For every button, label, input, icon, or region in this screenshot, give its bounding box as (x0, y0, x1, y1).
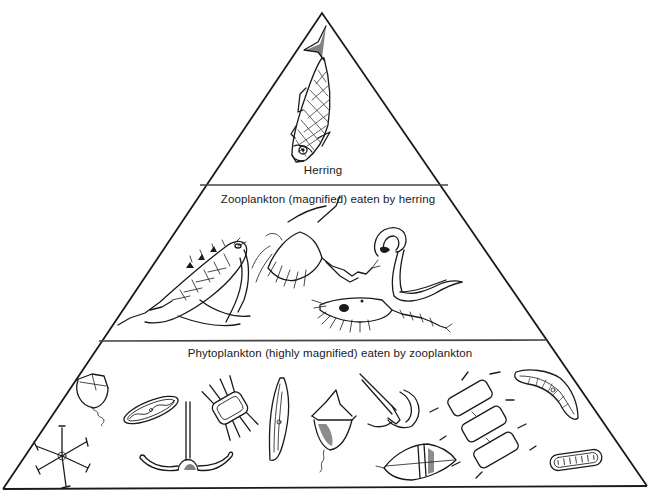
chain-diatom-illustration (430, 372, 536, 478)
food-pyramid-diagram: Herring Zooplankton (magnified) eaten by… (0, 0, 654, 498)
dinoflagellate-spiky-illustration (312, 390, 356, 472)
square-diatom-illustration (201, 374, 259, 442)
pyramid-outline (3, 13, 647, 489)
dinoflagellate-cup-illustration (76, 374, 108, 426)
crab-larva-illustration (252, 196, 380, 288)
cymbella-diatom-illustration (515, 370, 578, 419)
pennate-diatom-small-illustration (549, 448, 603, 471)
level-label-herring: Herring (304, 164, 342, 176)
shrimp-larva-illustration (312, 298, 452, 332)
copepod-illustration (118, 238, 250, 326)
star-diatom-illustration (34, 426, 90, 488)
spindle-dinoflagellate-illustration (376, 444, 456, 480)
pyramid-illustration (0, 0, 654, 498)
hook-dinoflagellate-illustration (360, 374, 419, 428)
divider-middle-bottom (99, 340, 548, 341)
herring-fish-illustration (291, 26, 330, 162)
arrow-worm-illustration (375, 228, 462, 301)
level-label-zooplankton: Zooplankton (magnified) eaten by herring (221, 193, 435, 205)
crescent-diatom-illustration (269, 378, 288, 460)
pennate-diatom-oval-illustration (121, 391, 182, 429)
level-label-phytoplankton: Phytoplankton (highly magnified) eaten b… (188, 347, 473, 359)
